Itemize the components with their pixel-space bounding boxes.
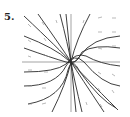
solution-curves bbox=[24, 14, 120, 112]
direction-field-diagram bbox=[0, 0, 130, 117]
